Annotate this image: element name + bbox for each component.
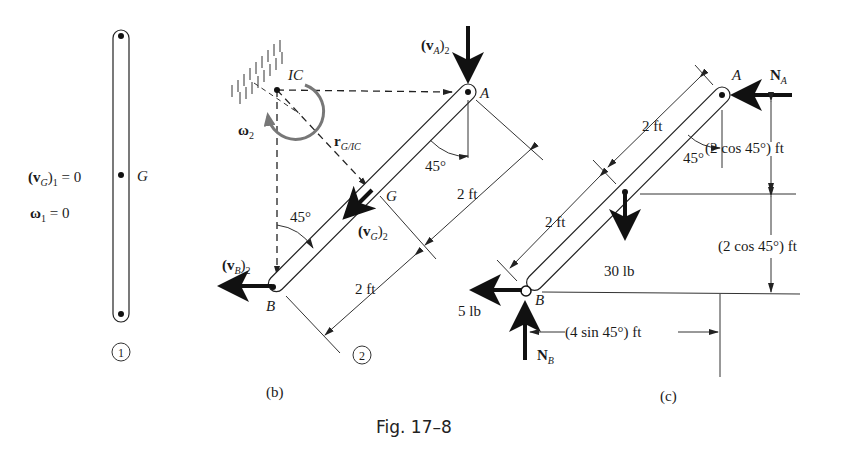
vdim-label-upper: (2 cos 45°) ft (705, 140, 785, 157)
force-NB-label: NB (537, 347, 554, 366)
dim-label-lower: 2 ft (355, 281, 376, 297)
position-2-label: 2 (359, 349, 365, 363)
panel-c-free-body-diagram: A B NA 30 lb 5 lb NB 45° 2 ft 2 ft ( (458, 65, 800, 405)
angle-label-c: 45° (683, 150, 704, 166)
dashed-line-IC-to-A (277, 90, 452, 92)
label-A-b: A (479, 85, 490, 101)
angle-label-bottom: 45° (290, 209, 311, 225)
ground-hatch (232, 40, 282, 104)
vdim-label-lower: (2 cos 45°) ft (718, 238, 798, 255)
r-G-IC-label: rG/IC (334, 133, 361, 152)
angle-arc-A (430, 140, 468, 156)
angular-velocity-omega2-icon (268, 85, 324, 139)
dim-ext-A-c (695, 65, 713, 85)
instant-center-point (274, 87, 280, 93)
label-B-c: B (535, 292, 544, 308)
friction-label: 5 lb (458, 303, 481, 319)
angle-label-top: 45° (425, 158, 446, 174)
omega1-label: ω1 = 0 (30, 205, 69, 224)
rod-2-pin-A (465, 89, 471, 95)
figure-caption: Fig. 17–8 (376, 417, 452, 437)
label-B-b: B (266, 298, 275, 314)
hdim-label: (4 sin 45°) ft (565, 324, 642, 341)
position-1-label: 1 (118, 346, 124, 360)
dim-extension-A (476, 100, 543, 160)
force-NA-label: NA (770, 67, 788, 86)
panel-1-vertical-rod: G (vG)1 = 0 ω1 = 0 1 (28, 30, 148, 361)
dim-extension-B (286, 296, 340, 353)
panel-b-label: (b) (266, 384, 284, 401)
dim-ext-B-c (497, 260, 517, 281)
velocity-vG1-label: (vG)1 = 0 (28, 169, 81, 188)
label-G-b: G (386, 188, 397, 204)
velocity-vA-label: (vA)2 (421, 37, 450, 56)
rod-3-pin-A (719, 92, 725, 98)
rod-center-of-mass (118, 172, 124, 178)
dim-label-lower-c: 2 ft (545, 214, 566, 230)
rod-bottom-pin (118, 311, 124, 317)
panel-b-kinematic-diagram: IC ω2 rG/IC A B G (vA)2 (vB)2 (vG)2 45° … (222, 26, 543, 401)
ref-line-bottom (542, 292, 800, 294)
center-of-mass-c (622, 189, 628, 195)
rod-top-pin (118, 33, 124, 39)
dim-extension-G (380, 196, 436, 259)
label-G-1: G (137, 168, 148, 184)
rod-3-pin-B (521, 286, 531, 296)
dim-label-upper: 2 ft (457, 186, 478, 202)
label-IC: IC (287, 67, 304, 83)
velocity-vG2-label: (vG)2 (358, 223, 388, 242)
weight-label: 30 lb (604, 263, 634, 279)
panel-c-label: (c) (660, 388, 677, 405)
omega2-label: ω2 (238, 122, 254, 141)
velocity-vB-label: (vB)2 (222, 257, 251, 276)
dim-label-upper-c: 2 ft (642, 118, 663, 134)
rod-2 (265, 81, 479, 295)
dim-ext-mid-c (593, 160, 616, 184)
figure-17-8: G (vG)1 = 0 ω1 = 0 1 (0, 0, 853, 461)
label-A-c: A (731, 67, 742, 83)
